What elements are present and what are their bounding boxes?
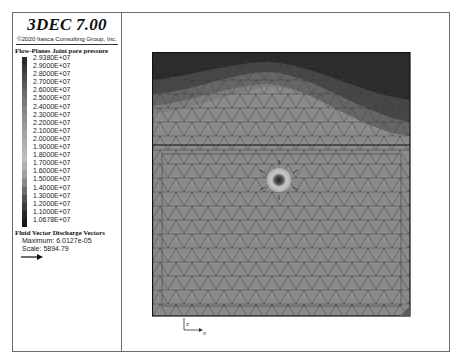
- legend-level-label: 1.6000E+07: [33, 167, 70, 175]
- color-bar-swatch: [22, 146, 27, 154]
- color-bar-swatch: [22, 211, 27, 219]
- color-bar-swatch: [22, 203, 27, 211]
- color-bar-swatch: [22, 219, 27, 227]
- color-bar: [22, 57, 27, 227]
- legend-level-label: 2.3000E+07: [33, 111, 70, 119]
- color-bar-swatch: [22, 187, 27, 195]
- color-bar-swatch: [22, 162, 27, 170]
- legend-level-label: 1.8000E+07: [33, 151, 70, 159]
- panel-divider: [121, 12, 122, 352]
- color-bar-swatch: [22, 195, 27, 203]
- vector-maximum: Maximum: 6.0127e-05: [22, 237, 92, 244]
- legend-level-label: 2.5000E+07: [33, 94, 70, 102]
- color-bar-swatch: [22, 73, 27, 81]
- legend-level-label: 1.0678E+07: [33, 216, 70, 224]
- color-bar-swatch: [22, 97, 27, 105]
- legend-level-label: 1.9000E+07: [33, 143, 70, 151]
- title-divider: [16, 44, 118, 45]
- copyright-text: ©2020 Itasca Consulting Group, Inc.: [14, 35, 120, 42]
- legend-level-label: 1.4000E+07: [33, 184, 70, 192]
- legend-level-label: 2.8000E+07: [33, 70, 70, 78]
- color-bar-swatch: [22, 170, 27, 178]
- axis-triad: z x: [182, 318, 212, 338]
- color-bar-swatch: [22, 130, 27, 138]
- color-bar-swatch: [22, 178, 27, 186]
- color-bar-swatch: [22, 89, 27, 97]
- vector-scale: Scale: 5894.79: [22, 245, 69, 252]
- color-bar-swatch: [22, 106, 27, 114]
- color-bar-swatch: [22, 57, 27, 65]
- legend-level-label: 2.2000E+07: [33, 119, 70, 127]
- color-bar-swatch: [22, 65, 27, 73]
- color-bar-swatch: [22, 114, 27, 122]
- legend-level-label: 1.7000E+07: [33, 159, 70, 167]
- legend-level-label: 2.0000E+07: [33, 135, 70, 143]
- app-title: 3DEC 7.00: [14, 15, 120, 35]
- legend-level-label: 1.2000E+07: [33, 200, 70, 208]
- color-bar-swatch: [22, 138, 27, 146]
- legend-labels: 2.9380E+072.9000E+072.8000E+072.7000E+07…: [33, 54, 70, 224]
- legend-level-label: 2.9380E+07: [33, 54, 70, 62]
- axis-x-label: x: [203, 330, 206, 336]
- legend-level-label: 1.5000E+07: [33, 175, 70, 183]
- legend-level-label: 2.7000E+07: [33, 78, 70, 86]
- model-viewport[interactable]: [152, 52, 412, 318]
- axis-z-label: z: [186, 321, 189, 327]
- legend-level-label: 1.3000E+07: [33, 192, 70, 200]
- legend-level-label: 2.1000E+07: [33, 127, 70, 135]
- legend-level-label: 2.9000E+07: [33, 62, 70, 70]
- legend-level-label: 1.1000E+07: [33, 208, 70, 216]
- vector-legend-title: Fluid Vector Discharge Vectors: [15, 229, 105, 236]
- legend-level-label: 2.4000E+07: [33, 103, 70, 111]
- vector-scale-arrow-icon: [21, 254, 43, 260]
- color-bar-swatch: [22, 81, 27, 89]
- color-bar-swatch: [22, 154, 27, 162]
- color-bar-swatch: [22, 122, 27, 130]
- legend-title: Flow-Planes Joint pore pressure: [15, 47, 108, 54]
- legend-level-label: 2.6000E+07: [33, 86, 70, 94]
